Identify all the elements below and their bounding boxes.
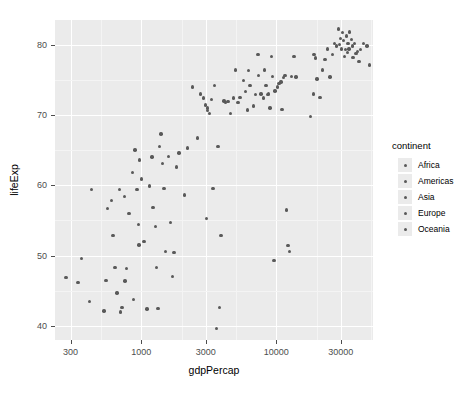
x-tick-mark — [141, 340, 142, 344]
legend-point-icon — [404, 212, 407, 215]
legend-point-icon — [404, 180, 407, 183]
data-point — [276, 85, 279, 88]
gridline-major-y — [55, 45, 373, 46]
gridline-major-x — [341, 20, 342, 340]
gridline-major-y — [55, 256, 373, 257]
data-point — [133, 148, 136, 151]
data-point — [104, 279, 107, 282]
data-point — [216, 145, 219, 148]
data-point — [343, 55, 346, 58]
data-point — [285, 208, 288, 211]
data-point — [272, 259, 275, 262]
x-tick-label: 3000 — [196, 347, 216, 357]
legend-key-swatch — [398, 190, 412, 204]
y-axis-label: lifeExp — [8, 164, 20, 196]
data-point — [257, 74, 260, 77]
legend-items: AfricaAmericasAsiaEuropeOceania — [392, 157, 462, 237]
data-point — [210, 98, 213, 101]
data-point — [120, 306, 123, 309]
legend-key-swatch — [398, 206, 412, 220]
legend-key-swatch — [398, 174, 412, 188]
data-point — [148, 184, 151, 187]
data-point — [131, 171, 134, 174]
data-point — [318, 96, 321, 99]
data-point — [357, 60, 360, 63]
data-point — [80, 257, 83, 260]
gridline-major-y — [55, 115, 373, 116]
data-point — [232, 96, 235, 99]
legend-item: Americas — [398, 173, 462, 189]
y-tick-label: 50 — [27, 251, 47, 261]
legend-item-label: Europe — [418, 208, 445, 218]
data-point — [254, 93, 257, 96]
data-point — [346, 51, 349, 54]
scatter-plot-figure: 300100030001000030000 4050607080 gdpPerc… — [0, 0, 465, 398]
legend-item-label: Americas — [418, 176, 453, 186]
data-point — [123, 279, 126, 282]
data-point — [271, 75, 274, 78]
legend-item: Africa — [398, 157, 462, 173]
data-point — [312, 92, 315, 95]
data-point — [348, 30, 351, 33]
gridline-minor-y — [55, 291, 373, 292]
legend-point-icon — [404, 228, 407, 231]
x-tick-label: 1000 — [131, 347, 151, 357]
data-point — [218, 306, 221, 309]
y-tick-label: 80 — [27, 40, 47, 50]
data-point — [331, 53, 334, 56]
y-tick-mark — [51, 326, 55, 327]
data-point — [162, 187, 165, 190]
data-point — [158, 145, 161, 148]
data-point — [127, 212, 130, 215]
data-point — [340, 47, 343, 50]
data-point — [175, 165, 178, 168]
data-point — [359, 48, 362, 51]
data-point — [263, 68, 266, 71]
data-point — [155, 266, 158, 269]
data-point — [186, 146, 189, 149]
legend-item-label: Asia — [418, 192, 435, 202]
data-point — [140, 177, 143, 180]
data-point — [365, 44, 368, 47]
gridline-major-x — [276, 20, 277, 340]
data-point — [283, 74, 286, 77]
gridline-major-x — [71, 20, 72, 340]
x-tick-mark — [276, 340, 277, 344]
data-point — [248, 84, 251, 87]
data-point — [76, 281, 79, 284]
gridline-minor-x — [101, 20, 102, 340]
legend-item-label: Africa — [418, 160, 440, 170]
data-point — [171, 275, 174, 278]
data-point — [106, 207, 109, 210]
legend-item-label: Oceania — [418, 224, 450, 234]
data-point — [346, 42, 349, 45]
data-point — [118, 188, 121, 191]
data-point — [270, 55, 273, 58]
data-point — [294, 75, 297, 78]
gridline-major-y — [55, 326, 373, 327]
data-point — [167, 155, 170, 158]
data-point — [111, 234, 114, 237]
x-tick-label: 30000 — [328, 347, 353, 357]
data-point — [290, 75, 293, 78]
data-point — [145, 307, 148, 310]
data-point — [341, 31, 344, 34]
legend-point-icon — [404, 164, 407, 167]
data-point — [110, 199, 113, 202]
data-point — [262, 96, 265, 99]
data-point — [292, 55, 295, 58]
data-point — [183, 193, 186, 196]
data-point — [137, 223, 140, 226]
gridline-minor-x — [371, 20, 372, 340]
gridline-minor-x — [317, 20, 318, 340]
legend: continent AfricaAmericasAsiaEuropeOceani… — [392, 140, 462, 237]
data-point — [123, 195, 126, 198]
data-point — [199, 92, 202, 95]
y-tick-mark — [51, 185, 55, 186]
y-tick-mark — [51, 256, 55, 257]
legend-item: Europe — [398, 205, 462, 221]
data-point — [154, 225, 157, 228]
data-point — [252, 104, 255, 107]
data-point — [132, 298, 135, 301]
data-point — [102, 309, 105, 312]
